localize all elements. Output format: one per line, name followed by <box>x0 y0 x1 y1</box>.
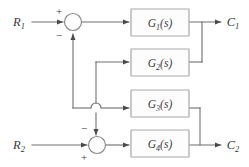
block-g3[interactable]: G3(s) <box>131 90 189 117</box>
path-g3-output-to-c2 <box>189 108 200 145</box>
sign-top-minus: − <box>56 29 62 41</box>
path-c1-tap-down-to-g2-output <box>189 22 202 62</box>
sign-bottom-plus: + <box>81 151 87 163</box>
summing-junction-top[interactable] <box>65 14 82 31</box>
block-diagram-svg: G1(s) G2(s) G3(s) G4(s) <box>0 0 249 167</box>
block-g2[interactable]: G2(s) <box>131 49 189 76</box>
sign-bottom-minus: − <box>81 122 87 134</box>
block-diagram-canvas: G1(s) G2(s) G3(s) G4(s) <box>0 0 249 167</box>
block-g1[interactable]: G1(s) <box>131 9 189 36</box>
summing-junction-bottom[interactable] <box>89 137 106 154</box>
block-g4[interactable]: G4(s) <box>131 130 189 157</box>
wire-crossover-hop-icon <box>91 103 101 108</box>
output-label-c2: C2 <box>227 138 240 154</box>
input-label-r1: R1 <box>12 15 25 31</box>
input-label-r2: R2 <box>12 138 26 154</box>
sign-top-plus: + <box>56 5 62 17</box>
output-label-c1: C1 <box>227 15 240 31</box>
